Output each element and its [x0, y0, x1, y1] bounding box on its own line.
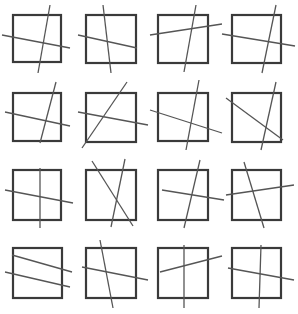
canvas-background — [0, 0, 298, 314]
squares-and-lines-svg — [0, 0, 298, 314]
figure-root — [0, 0, 298, 314]
